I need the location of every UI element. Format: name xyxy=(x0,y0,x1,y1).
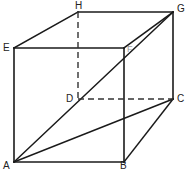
vertex-label-a: A xyxy=(3,161,10,171)
edge-g-f xyxy=(124,12,173,48)
vertex-label-h: H xyxy=(75,1,82,11)
vertex-label-e: E xyxy=(3,43,10,53)
cube-diagram: A B C D E F G H xyxy=(0,0,187,171)
vertex-label-g: G xyxy=(177,4,185,14)
vertex-label-d: D xyxy=(66,94,73,104)
vertex-label-f: F xyxy=(127,44,133,54)
vertex-label-b: B xyxy=(120,161,127,171)
cube-svg-canvas xyxy=(0,0,187,171)
vertex-label-c: C xyxy=(177,94,184,104)
edge-e-h xyxy=(14,12,78,48)
